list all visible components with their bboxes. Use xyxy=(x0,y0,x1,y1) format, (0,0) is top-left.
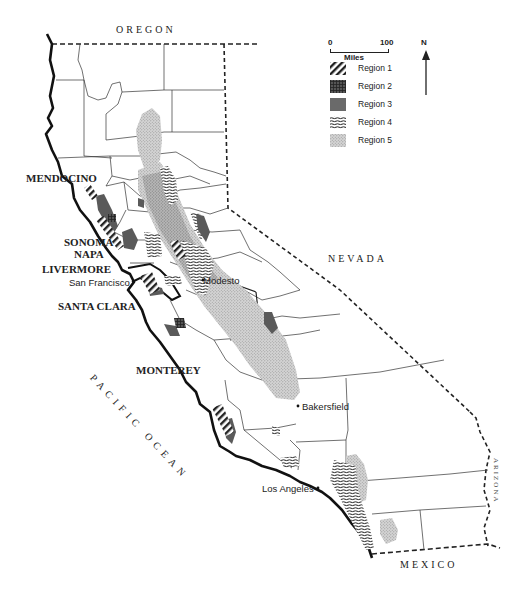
mexico-border xyxy=(372,544,500,554)
legend-label: Region 3 xyxy=(358,99,392,109)
region1-livermore xyxy=(140,272,160,294)
region5-south-b xyxy=(380,518,398,544)
oregon-label: OREGON xyxy=(116,24,176,35)
livermore-label: LIVERMORE xyxy=(42,263,111,275)
north-arrow: N xyxy=(421,38,431,98)
santa-clara-label: SANTA CLARA xyxy=(58,300,136,312)
north-arrow-icon: N xyxy=(421,38,427,47)
san-francisco-label: San Francisco xyxy=(69,277,130,288)
legend-label: Region 4 xyxy=(358,117,392,127)
arizona-label: ARIZONA xyxy=(492,458,500,504)
region4-b xyxy=(144,232,162,258)
monterey-label: MONTEREY xyxy=(136,364,201,376)
county-lines xyxy=(56,44,488,550)
sonoma-label: SONOMA xyxy=(64,236,114,248)
bakersfield-label: Bakersfield xyxy=(302,401,349,412)
california-map xyxy=(0,0,509,592)
legend-label: Region 2 xyxy=(358,81,392,91)
legend-label: Region 5 xyxy=(358,135,392,145)
mendocino-label: MENDOCINO xyxy=(26,172,97,184)
los-angeles-dot xyxy=(317,487,320,490)
scale-unit: Miles xyxy=(344,53,364,62)
region5-valley-north xyxy=(136,108,162,170)
mexico-label: MEXICO xyxy=(400,559,457,570)
region4-d xyxy=(164,276,182,286)
scale-end: 100 xyxy=(380,38,393,47)
modesto-label: Modesto xyxy=(203,275,239,286)
region2-a xyxy=(108,214,116,222)
region2-b xyxy=(174,318,186,328)
region4-g xyxy=(280,456,300,468)
los-angeles-label: Los Angeles xyxy=(262,483,314,494)
bakersfield-dot xyxy=(297,405,300,408)
napa-label: NAPA xyxy=(74,248,104,260)
scale-start: 0 xyxy=(328,38,332,47)
legend-label: Region 1 xyxy=(358,63,392,73)
region1-mendocino xyxy=(84,184,98,200)
nevada-label: NEVADA xyxy=(328,253,387,264)
region3-napa xyxy=(122,228,138,250)
arizona-border xyxy=(470,412,490,546)
